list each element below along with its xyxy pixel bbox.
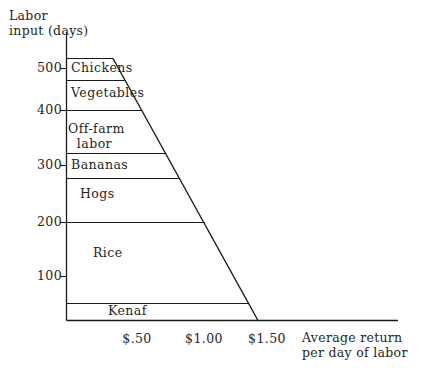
labor-input-chart: Labor input (days) Average return per da…	[0, 0, 434, 376]
return-frontier-diagonal	[113, 59, 258, 321]
chart-plot-area	[0, 0, 434, 376]
